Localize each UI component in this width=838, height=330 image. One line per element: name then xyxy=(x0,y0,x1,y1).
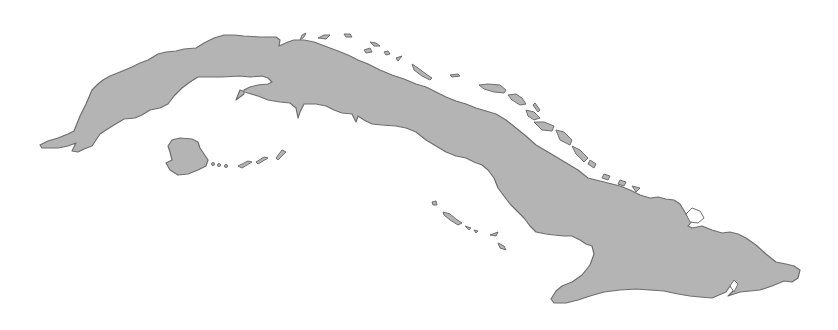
south-cay xyxy=(432,201,437,205)
north-cay xyxy=(300,33,306,40)
main-island xyxy=(40,35,800,303)
canarreos-islet xyxy=(256,157,268,164)
north-cay xyxy=(450,74,460,77)
north-cay xyxy=(364,48,372,53)
canarreos-islet xyxy=(212,163,215,166)
north-cay xyxy=(344,34,352,37)
canarreos-islet xyxy=(225,165,228,168)
south-cay xyxy=(498,243,506,250)
north-cay xyxy=(588,160,596,168)
north-cay xyxy=(556,130,572,145)
canarreos-islet xyxy=(238,161,252,168)
map-container: Cuba xyxy=(0,0,838,330)
cuba-map xyxy=(0,0,838,330)
north-cay xyxy=(396,56,402,61)
isla-de-la-juventud xyxy=(166,138,208,175)
north-cay xyxy=(602,174,610,180)
north-cay xyxy=(508,94,526,105)
south-cay xyxy=(465,226,471,230)
north-cay xyxy=(412,64,432,80)
north-cay xyxy=(618,180,626,186)
north-cay xyxy=(533,103,540,112)
north-cay xyxy=(572,146,588,162)
south-cay xyxy=(490,232,498,236)
canarreos-islet xyxy=(218,164,221,167)
south-cay xyxy=(443,212,462,225)
canarreos-islet xyxy=(276,150,286,160)
north-cay xyxy=(370,42,380,46)
south-cay xyxy=(474,230,478,233)
north-cay xyxy=(534,122,554,131)
north-cay xyxy=(384,51,390,55)
north-cay xyxy=(479,84,506,93)
north-cay xyxy=(318,35,330,39)
